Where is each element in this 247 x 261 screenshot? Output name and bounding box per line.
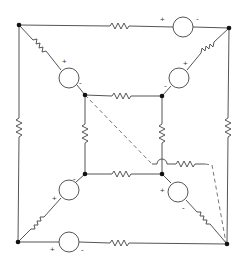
diagonal-top-left-branch: + - xyxy=(19,25,85,95)
dashed-branch xyxy=(85,95,226,243)
voltage-source-diag-top-right xyxy=(169,68,189,88)
node-outer-top-right xyxy=(227,26,232,31)
diagonal-bottom-left-branch: + - xyxy=(18,174,85,242)
voltage-source-top xyxy=(173,17,193,37)
voltage-source-diag-top-left xyxy=(59,68,79,88)
minus-sign: - xyxy=(164,81,167,90)
outer-top-branch: + - xyxy=(19,14,229,37)
minus-sign: - xyxy=(73,174,76,183)
diagonal-top-right-branch: + - xyxy=(162,28,229,96)
minus-sign: - xyxy=(79,78,82,87)
node-inner-top-right xyxy=(160,94,165,99)
plus-sign: + xyxy=(52,194,57,203)
minus-sign: - xyxy=(182,203,185,212)
inner-right-branch xyxy=(159,96,165,174)
plus-sign: + xyxy=(62,57,67,66)
node-outer-bottom-left xyxy=(16,240,21,245)
node-outer-bottom-right xyxy=(225,242,230,247)
inner-top-branch xyxy=(85,93,162,99)
node-inner-top-left xyxy=(83,93,88,98)
node-outer-top-left xyxy=(17,23,22,28)
plus-sign: + xyxy=(183,59,188,68)
voltage-source-bottom xyxy=(59,232,79,252)
circuit-diagram: + - + - + - + - + - + xyxy=(0,0,247,261)
inner-bottom-branch xyxy=(85,171,162,177)
node-inner-bottom-left xyxy=(83,172,88,177)
node-inner-bottom-right xyxy=(160,172,165,177)
outer-bottom-branch: + - xyxy=(18,232,227,254)
voltage-source-diag-bottom-right xyxy=(168,182,188,202)
plus-sign: + xyxy=(160,186,165,195)
minus-sign: - xyxy=(196,14,199,23)
plus-sign: + xyxy=(160,15,165,24)
minus-sign: - xyxy=(81,245,84,254)
voltage-source-diag-bottom-left xyxy=(59,180,79,200)
diagonal-bottom-right-branch: + - xyxy=(160,174,227,244)
outer-left-branch xyxy=(16,25,22,242)
outer-right-branch xyxy=(225,28,231,244)
plus-sign: + xyxy=(50,245,55,254)
inner-left-branch xyxy=(82,95,88,174)
